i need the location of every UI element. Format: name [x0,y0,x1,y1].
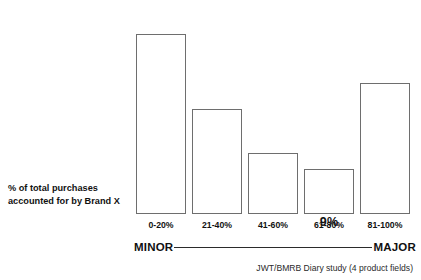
bar-group: 33% 0-20% [136,0,186,280]
bar-category-label: 81-100% [368,220,403,230]
plot-area: 33% 0-20% 21% 21-40% 12% 41-60% 9% 61-80… [0,0,421,280]
bar-chart: 33% 0-20% 21% 21-40% 12% 41-60% 9% 61-80… [0,0,421,280]
minor-major-scale: MINOR MAJOR [134,240,416,254]
bar-rect [192,109,242,214]
bar-rect [248,153,298,214]
y-axis-label-line-2: accounted for by Brand X [8,195,134,208]
bar-group: 21% 21-40% [192,0,242,280]
bar-group: 9% 61-80% [304,0,354,280]
bar-rect [136,34,186,214]
bar-category-label: 21-40% [202,220,232,230]
bar-category-label: 0-20% [148,220,173,230]
bar-rect [360,83,410,214]
source-credit: JWT/BMRB Diary study (4 product fields) [256,263,413,273]
y-axis-label: % of total purchases accounted for by Br… [8,182,134,208]
bar-group: 25% 81-100% [360,0,410,280]
scale-label-minor: MINOR [134,241,173,253]
bar-group: 12% 41-60% [248,0,298,280]
scale-label-major: MAJOR [373,241,416,253]
scale-connector-line [174,247,372,248]
bar-rect [304,169,354,214]
bar-category-label: 61-80% [314,220,344,230]
bar-category-label: 41-60% [258,220,288,230]
y-axis-label-line-1: % of total purchases [8,182,134,195]
